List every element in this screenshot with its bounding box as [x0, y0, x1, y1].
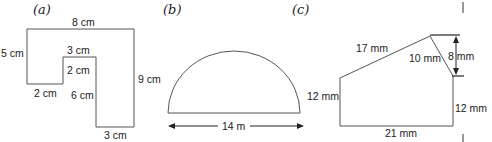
figure-b: (b) 14 m [163, 2, 304, 132]
label-left-side: 12 mm [307, 90, 339, 102]
label-inner-top: 3 cm [67, 44, 90, 56]
panel-label-b: (b) [163, 2, 181, 17]
label-slant-long: 17 mm [356, 42, 388, 54]
label-inner-vertical: 6 cm [71, 89, 94, 101]
diagram-canvas: (a) 8 cm 5 cm 3 cm 2 cm 2 cm 6 cm 9 cm 3… [0, 0, 492, 142]
label-slant-short: 10 mm [409, 52, 441, 64]
label-left: 5 cm [1, 47, 24, 59]
label-bottom: 3 cm [104, 129, 127, 141]
label-vertical-drop: 8 mm [448, 50, 475, 62]
panel-label-a: (a) [33, 2, 51, 17]
label-top: 8 cm [72, 16, 95, 28]
label-bottom-left: 2 cm [34, 87, 57, 99]
label-right: 9 cm [138, 73, 161, 85]
panel-label-c: (c) [292, 2, 309, 17]
figure-a: (a) 8 cm 5 cm 3 cm 2 cm 2 cm 6 cm 9 cm 3… [1, 2, 161, 141]
figure-c: (c) 17 mm 10 mm 8 mm 12 mm 12 mm 21 mm [292, 2, 487, 142]
semicircle-outline [168, 51, 300, 113]
label-bottom-side: 21 mm [385, 127, 417, 139]
label-inner-step: 2 cm [67, 64, 90, 76]
label-diameter: 14 m [222, 120, 246, 132]
label-right-side: 12 mm [455, 102, 487, 114]
